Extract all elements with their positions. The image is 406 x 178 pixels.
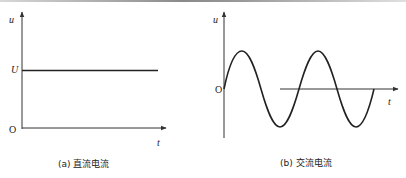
ac-x-axis-label: t	[388, 96, 391, 107]
dc-origin-label: O	[9, 124, 16, 135]
dc-y-axis-label: u	[9, 14, 14, 25]
ac-caption: (b) 交流电流	[280, 157, 332, 168]
ac-y-axis-label: u	[213, 14, 218, 25]
dc-chart: u U O t (a) 直流电流	[9, 12, 166, 169]
dc-x-axis-label: t	[157, 137, 160, 148]
dc-caption: (a) 直流电流	[58, 158, 109, 169]
figure: u U O t (a) 直流电流 u O t (b) 交流电流	[0, 0, 406, 178]
ac-origin-label: O	[215, 84, 222, 95]
dc-level-label: U	[11, 64, 19, 75]
ac-chart: u O t (b) 交流电流	[213, 12, 398, 168]
